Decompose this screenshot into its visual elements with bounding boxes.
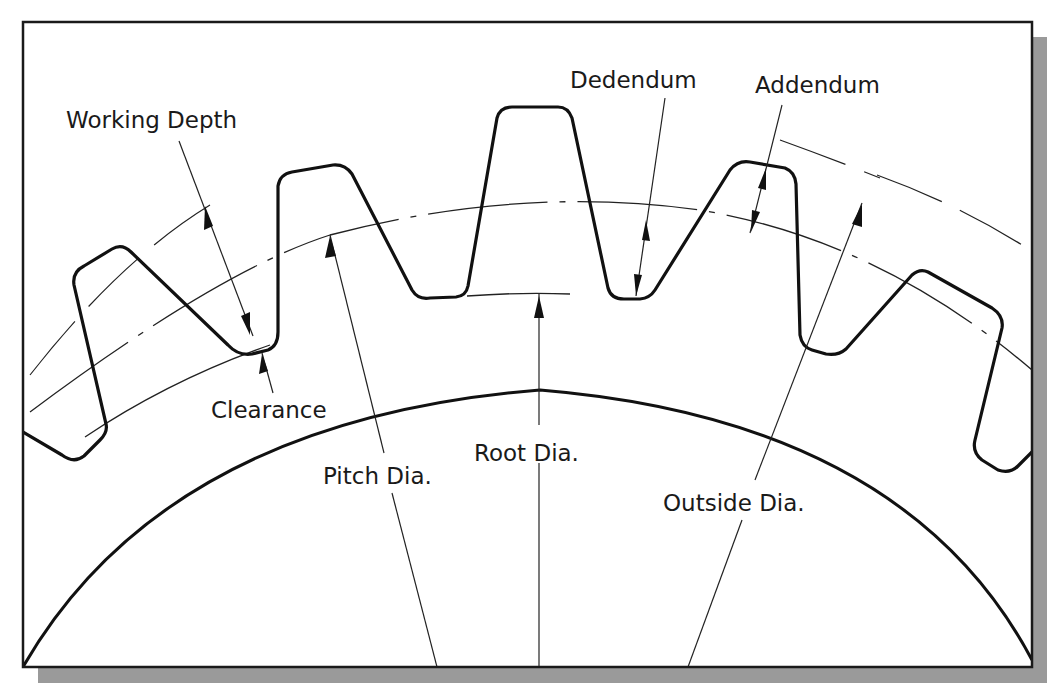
label-outside-dia: Outside Dia. — [663, 490, 805, 516]
label-addendum: Addendum — [755, 72, 880, 98]
label-root-dia: Root Dia. — [474, 440, 579, 466]
label-clearance: Clearance — [211, 397, 327, 423]
label-dedendum: Dedendum — [570, 67, 697, 93]
label-pitch-dia: Pitch Dia. — [323, 463, 432, 489]
gear-nomenclature-diagram: Working Depth Dedendum Addendum Clearanc… — [0, 0, 1064, 693]
label-working-depth: Working Depth — [66, 107, 237, 133]
